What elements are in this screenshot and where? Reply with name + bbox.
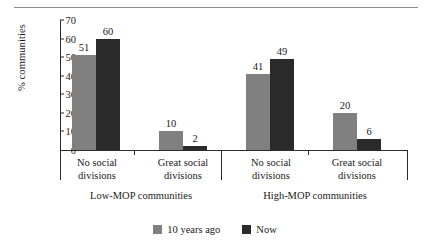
group-label-low-mop: Low-MOP communities	[60, 190, 222, 201]
bar-prev	[333, 113, 357, 150]
bar-value-label: 6	[366, 126, 371, 137]
x-category-label-low-great: Great social divisions	[141, 156, 225, 182]
x-axis-line	[60, 150, 408, 151]
x-category-label-high-no: No social divisions	[231, 156, 311, 182]
bar-group-high-great-now: 6	[357, 20, 381, 150]
bar-value-label: 51	[79, 42, 90, 53]
legend-label: 10 years ago	[167, 224, 220, 235]
legend-item-now: Now	[242, 224, 276, 235]
bar-value-label: 10	[166, 118, 177, 129]
legend-swatch-icon	[153, 225, 162, 234]
chart-legend: 10 years ago Now	[0, 224, 430, 235]
bar-value-label: 20	[340, 100, 351, 111]
bar-group-low-great-now: 2	[183, 20, 207, 150]
bar-prev	[246, 74, 270, 150]
legend-swatch-icon	[242, 225, 251, 234]
x-category-line2: divisions	[315, 169, 399, 182]
x-category-line2: divisions	[57, 169, 137, 182]
y-axis-label: % communities	[16, 3, 27, 113]
bar-value-label: 41	[253, 61, 264, 72]
bar-now	[270, 59, 294, 150]
x-category-line1: Great social	[158, 157, 208, 168]
bar-group-high-no-now: 49	[270, 20, 294, 150]
x-axis-separator	[134, 150, 135, 155]
top-divider-rule	[14, 7, 418, 8]
bar-group-low-no-prev: 51	[72, 20, 96, 150]
bar-now	[96, 39, 120, 150]
bar-value-label: 60	[103, 26, 114, 37]
bar-prev	[159, 131, 183, 150]
bar-group-high-great-prev: 20	[333, 20, 357, 150]
bar-group-high-no-prev: 41	[246, 20, 270, 150]
bars-layer: 51 60 10 2 41 49 20 6	[60, 20, 408, 150]
bar-group-low-no-now: 60	[96, 20, 120, 150]
x-category-label-low-no: No social divisions	[57, 156, 137, 182]
legend-item-prev: 10 years ago	[153, 224, 220, 235]
bar-chart-figure: % communities 70 60 50 40 30 20 10	[0, 0, 430, 248]
x-category-line1: No social	[77, 157, 117, 168]
group-label-high-mop: High-MOP communities	[222, 190, 408, 201]
bar-prev	[72, 55, 96, 150]
bar-value-label: 2	[192, 133, 197, 144]
x-category-line1: No social	[251, 157, 291, 168]
x-axis-separator	[308, 150, 309, 155]
x-category-line2: divisions	[141, 169, 225, 182]
bar-value-label: 49	[277, 46, 288, 57]
legend-label: Now	[256, 224, 276, 235]
bar-group-low-great-prev: 10	[159, 20, 183, 150]
bar-now	[357, 139, 381, 150]
bar-now	[183, 146, 207, 150]
x-category-label-high-great: Great social divisions	[315, 156, 399, 182]
right-border-line	[407, 150, 408, 180]
x-category-line1: Great social	[332, 157, 382, 168]
x-category-line2: divisions	[231, 169, 311, 182]
